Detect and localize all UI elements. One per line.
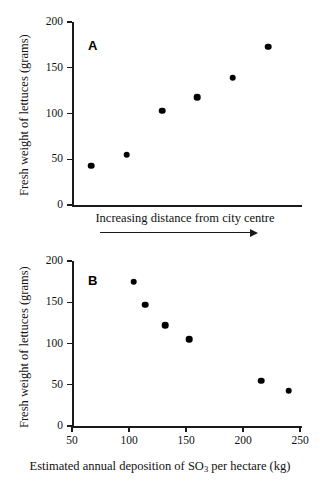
- y-tick-b-3: [67, 302, 72, 303]
- chart-panel-b: 05010015020050100150200250 B Fresh weigh…: [0, 240, 320, 492]
- y-tick-b-2: [67, 343, 72, 344]
- plot-area-a: 050100150200: [72, 22, 300, 205]
- x-tick-label-b-2: 150: [177, 435, 194, 447]
- x-axis-line-a: [72, 205, 302, 207]
- y-tick-a-2: [67, 113, 72, 114]
- arrow-head-icon: [250, 229, 258, 237]
- data-point-b-5: [285, 387, 292, 394]
- data-point-b-0: [130, 278, 137, 285]
- x-tick-label-b-0: 50: [66, 435, 78, 447]
- data-point-a-5: [265, 43, 272, 50]
- x-tick-b-2: [185, 427, 186, 432]
- y-tick-label-b-3: 150: [37, 297, 63, 309]
- y-tick-b-1: [67, 384, 72, 385]
- y-tick-label-a-0: 0: [37, 199, 63, 211]
- x-tick-label-b-4: 250: [291, 435, 308, 447]
- x-tick-b-4: [299, 427, 300, 432]
- y-tick-label-b-1: 50: [37, 379, 63, 391]
- y-axis-line-a: [72, 22, 74, 206]
- x-axis-line-b: [72, 426, 302, 428]
- x-tick-b-3: [242, 427, 243, 432]
- y-tick-label-a-2: 100: [37, 108, 63, 120]
- y-tick-label-a-1: 50: [37, 154, 63, 166]
- y-tick-label-a-3: 150: [37, 62, 63, 74]
- data-point-b-4: [258, 377, 265, 384]
- y-tick-label-b-0: 0: [37, 420, 63, 432]
- data-point-a-2: [159, 107, 166, 114]
- panel-label-a: A: [88, 38, 97, 53]
- plot-area-b: 05010015020050100150200250: [72, 261, 300, 426]
- y-tick-label-a-4: 200: [37, 16, 63, 28]
- y-tick-label-b-2: 100: [37, 338, 63, 350]
- y-tick-b-4: [67, 260, 72, 261]
- y-axis-line-b: [72, 261, 74, 427]
- y-tick-a-4: [67, 21, 72, 22]
- data-point-b-2: [162, 322, 169, 329]
- x-tick-b-1: [128, 427, 129, 432]
- data-point-a-4: [230, 75, 237, 82]
- so3-subscript: 3: [204, 464, 208, 474]
- data-point-a-1: [123, 151, 130, 158]
- increasing-distance-arrow: [100, 228, 258, 237]
- y-tick-a-1: [67, 159, 72, 160]
- figure-two-scatter-plots: 050100150200 A Fresh weight of lettuces …: [0, 0, 320, 492]
- y-axis-title-a: Fresh weight of lettuces (grams): [17, 34, 32, 196]
- panel-label-b: B: [88, 273, 97, 288]
- y-tick-a-0: [67, 204, 72, 205]
- data-point-a-3: [194, 94, 201, 101]
- data-point-b-3: [186, 336, 193, 343]
- x-axis-title-b: Estimated annual deposition of SO3 per h…: [10, 459, 310, 474]
- data-point-b-1: [142, 301, 149, 308]
- y-tick-label-b-4: 200: [37, 255, 63, 267]
- arrow-shaft: [100, 232, 251, 233]
- data-point-a-0: [88, 162, 95, 169]
- x-tick-b-0: [71, 427, 72, 432]
- x-axis-title-a: Increasing distance from city centre: [60, 211, 310, 226]
- y-tick-a-3: [67, 67, 72, 68]
- x-tick-label-b-1: 100: [120, 435, 137, 447]
- chart-panel-a: 050100150200 A Fresh weight of lettuces …: [0, 0, 320, 246]
- y-axis-title-b: Fresh weight of lettuces (grams): [17, 266, 32, 428]
- x-tick-label-b-3: 200: [234, 435, 251, 447]
